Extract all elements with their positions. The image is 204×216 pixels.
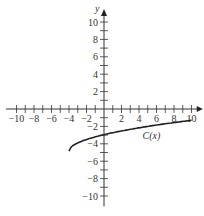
svg-text:4: 4 [137,113,142,124]
svg-text:8: 8 [93,34,98,45]
svg-text:−10: −10 [9,113,25,124]
svg-text:10: 10 [88,17,98,28]
svg-text:2: 2 [119,113,124,124]
axes [6,9,203,206]
svg-text:−4: −4 [64,113,75,124]
svg-text:−6: −6 [87,156,98,167]
svg-text:−4: −4 [87,138,98,149]
svg-text:2: 2 [93,86,98,97]
svg-text:4: 4 [93,69,98,80]
svg-text:6: 6 [154,113,159,124]
svg-text:−6: −6 [46,113,57,124]
svg-text:−2: −2 [87,121,98,132]
svg-text:6: 6 [93,51,98,62]
svg-text:10: 10 [187,113,197,124]
svg-text:−10: −10 [82,191,98,202]
svg-text:−8: −8 [29,113,40,124]
coordinate-plane: −10−8−6−4−2246810108642−2−4−6−8−10 C(x) … [0,0,204,216]
svg-text:−8: −8 [87,173,98,184]
y-axis-label: y [94,3,100,14]
curve-label: C(x) [143,130,161,142]
